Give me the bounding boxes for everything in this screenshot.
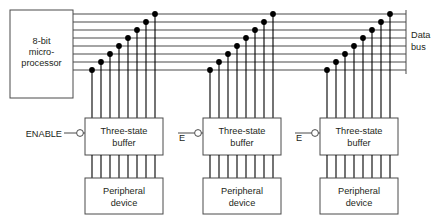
cluster-3-junction-dot-1 — [333, 59, 339, 65]
cluster-1-buffer-label-line1: Three-state — [101, 126, 148, 136]
cluster-2-enable-label: E — [179, 133, 185, 143]
cluster-2-junction-dot-3 — [234, 43, 240, 49]
cluster-2-junction-dot-6 — [261, 19, 267, 25]
junction-dots — [89, 11, 393, 73]
cluster-1-junction-dot-0 — [89, 67, 95, 73]
cluster-1-junction-dot-4 — [125, 35, 131, 41]
cluster-1-enable-label: ENABLE — [26, 129, 62, 139]
microprocessor-label-line3: processor — [21, 58, 61, 68]
cluster-2-junction-dot-4 — [243, 35, 249, 41]
buffer-clusters — [64, 14, 398, 214]
cluster-2-buffer-label-line1: Three-state — [219, 126, 266, 136]
cluster-1-junction-dot-3 — [116, 43, 122, 49]
cluster-3-junction-dot-2 — [342, 51, 348, 57]
cluster-2-enable-inversion-bubble — [195, 130, 202, 137]
cluster-2-junction-dot-2 — [225, 51, 231, 57]
cluster-3-junction-dot-4 — [360, 35, 366, 41]
cluster-3-junction-dot-6 — [378, 19, 384, 25]
data-bus-label-line1: Data — [411, 30, 431, 40]
cluster-3-enable-inversion-bubble — [312, 130, 319, 137]
cluster-2-peripheral-label-line2: device — [229, 198, 256, 208]
cluster-1-buffer-label-line2: buffer — [112, 138, 135, 148]
microprocessor-label-line2: micro- — [29, 47, 55, 57]
cluster-2-peripheral-device-box — [203, 178, 281, 214]
cluster-3-junction-dot-3 — [351, 43, 357, 49]
cluster-3-peripheral-label-line2: device — [346, 198, 373, 208]
cluster-3-junction-dot-7 — [387, 11, 393, 17]
cluster-3-buffer-label-line1: Three-state — [336, 126, 383, 136]
cluster-3-enable-label: E — [296, 133, 302, 143]
data-bus-lines — [73, 10, 406, 74]
cluster-2-three-state-buffer-box — [203, 118, 281, 155]
cluster-1-three-state-buffer-box — [85, 118, 163, 155]
cluster-3-buffer-label-line2: buffer — [347, 138, 370, 148]
schematic-canvas: 8-bitmicro-processorDatabusThree-statebu… — [0, 0, 436, 224]
cluster-2-peripheral-label-line1: Peripheral — [221, 186, 263, 196]
cluster-1-junction-dot-5 — [134, 27, 140, 33]
cluster-3-peripheral-device-box — [320, 178, 398, 214]
cluster-1-peripheral-label-line1: Peripheral — [103, 186, 145, 196]
cluster-3-junction-dot-0 — [324, 67, 330, 73]
cluster-2-junction-dot-7 — [270, 11, 276, 17]
cluster-1-junction-dot-1 — [98, 59, 104, 65]
cluster-2-junction-dot-0 — [207, 67, 213, 73]
cluster-1-junction-dot-6 — [143, 19, 149, 25]
data-bus-label-line2: bus — [411, 42, 426, 52]
cluster-1-peripheral-label-line2: device — [111, 198, 138, 208]
cluster-1-peripheral-device-box — [85, 178, 163, 214]
cluster-2-junction-dot-5 — [252, 27, 258, 33]
cluster-2-junction-dot-1 — [216, 59, 222, 65]
cluster-3-junction-dot-5 — [369, 27, 375, 33]
cluster-1-junction-dot-2 — [107, 51, 113, 57]
cluster-1-enable-inversion-bubble — [77, 130, 84, 137]
microprocessor-label-line1: 8-bit — [33, 36, 51, 46]
cluster-3-three-state-buffer-box — [320, 118, 398, 155]
circuit-diagram: 8-bitmicro-processorDatabusThree-statebu… — [0, 0, 436, 224]
cluster-3-peripheral-label-line1: Peripheral — [338, 186, 380, 196]
cluster-1-junction-dot-7 — [152, 11, 158, 17]
cluster-2-buffer-label-line2: buffer — [230, 138, 253, 148]
